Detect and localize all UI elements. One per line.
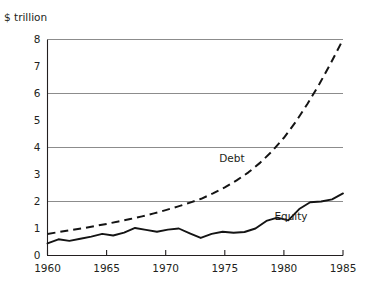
series-annotations-group: DebtEquity (219, 152, 307, 222)
y-tick-label: 2 (34, 195, 41, 207)
y-axis-unit-label: $ trillion (4, 11, 47, 23)
series-annotation-debt: Debt (219, 152, 244, 164)
series-annotation-equity: Equity (274, 210, 307, 222)
y-tick-labels-group: 012345678 (34, 33, 41, 261)
x-tick-label: 1960 (34, 262, 61, 274)
x-tick-labels-group: 196019651970197519801985 (34, 262, 356, 274)
series-line-debt (48, 40, 344, 234)
x-tick-label: 1965 (93, 262, 120, 274)
y-tick-label: 0 (34, 249, 41, 261)
line-chart: $ trillion 012345678 1960196519701975198… (0, 0, 373, 295)
y-tick-label: 4 (34, 141, 41, 153)
y-tick-label: 8 (34, 33, 41, 45)
y-tick-label: 1 (34, 222, 41, 234)
x-tick-label: 1975 (211, 262, 238, 274)
y-tick-label: 7 (34, 60, 41, 72)
gridlines-group (48, 40, 344, 202)
chart-container: $ trillion 012345678 1960196519701975198… (0, 0, 373, 295)
x-tick-label: 1970 (152, 262, 179, 274)
x-tick-label: 1985 (330, 262, 357, 274)
y-tick-label: 5 (34, 114, 41, 126)
x-tick-label: 1980 (271, 262, 298, 274)
y-tick-label: 6 (34, 87, 41, 99)
x-tick-marks-group (48, 250, 344, 256)
y-tick-label: 3 (34, 168, 41, 180)
